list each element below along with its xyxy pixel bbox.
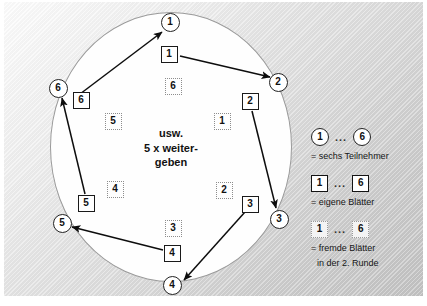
legend-symbol-last-own: 6 — [352, 175, 369, 192]
own-sheet-label: 6 — [78, 95, 84, 105]
foreign-sheet-label: 6 — [170, 81, 176, 91]
own-sheet-4: 4 — [164, 245, 181, 262]
participant-circle-label: 3 — [276, 214, 282, 224]
own-sheet-label: 3 — [247, 199, 253, 209]
foreign-sheet-label: 2 — [221, 185, 227, 195]
frame-left-margin — [0, 0, 4, 306]
legend-caption-circle: = sechs Teilnehmer — [311, 150, 423, 162]
participant-circle-6: 6 — [49, 79, 68, 98]
center-caption-line-1: usw. — [121, 126, 221, 141]
legend-symbols-foreign: 1...6 — [311, 219, 423, 239]
own-sheet-label: 4 — [169, 248, 175, 258]
foreign-sheet-4: 4 — [107, 181, 124, 198]
participant-circle-5: 5 — [53, 214, 72, 233]
center-caption-line-3: geben — [121, 155, 221, 170]
legend-caption-foreign: = fremde Blätter — [311, 242, 423, 254]
legend-symbol-last-circle: 6 — [353, 128, 371, 146]
foreign-sheet-label: 4 — [112, 184, 118, 194]
foreign-sheet-label: 5 — [110, 116, 116, 126]
foreign-sheet-6: 6 — [165, 78, 182, 95]
foreign-sheet-label: 3 — [170, 223, 176, 233]
legend-symbol-first-foreign: 1 — [311, 221, 328, 238]
own-sheet-2: 2 — [242, 93, 259, 110]
foreign-sheet-label: 1 — [219, 116, 225, 126]
participant-circle-label: 6 — [55, 83, 61, 93]
own-sheet-label: 1 — [166, 49, 172, 59]
participant-circle-label: 1 — [167, 17, 173, 27]
center-caption-line-2: 5 x weiter- — [121, 141, 221, 156]
legend-ellipsis: ... — [334, 178, 346, 189]
foreign-sheet-3: 3 — [165, 220, 182, 237]
frame-top-margin — [0, 0, 427, 2]
legend: 1...6= sechs Teilnehmer1...6= eigene Blä… — [311, 127, 423, 281]
figure-root: 123456612345123456 usw. 5 x weiter- gebe… — [0, 0, 427, 306]
participant-circle-4: 4 — [163, 276, 182, 295]
own-sheet-3: 3 — [242, 196, 259, 213]
legend-symbol-last-foreign: 6 — [352, 221, 369, 238]
participant-circle-label: 2 — [275, 77, 281, 87]
legend-item-own: 1...6= eigene Blätter — [311, 173, 423, 208]
participant-circle-2: 2 — [269, 73, 288, 92]
participant-circle-label: 5 — [59, 218, 65, 228]
legend-item-foreign: 1...6= fremde Blätterin der 2. Runde — [311, 219, 423, 269]
participant-circle-label: 4 — [169, 280, 175, 290]
frame-right-margin — [423, 0, 427, 306]
own-sheet-5: 5 — [78, 195, 95, 212]
frame-bottom-margin — [0, 298, 427, 306]
own-sheet-label: 5 — [83, 198, 89, 208]
foreign-sheet-2: 2 — [216, 182, 233, 199]
own-sheet-1: 1 — [161, 46, 178, 63]
legend-symbol-first-own: 1 — [311, 175, 328, 192]
legend-item-circle: 1...6= sechs Teilnehmer — [311, 127, 423, 162]
center-caption: usw. 5 x weiter- geben — [121, 126, 221, 170]
foreign-sheet-5: 5 — [105, 113, 122, 130]
legend-symbols-own: 1...6 — [311, 173, 423, 193]
legend-ellipsis: ... — [334, 224, 346, 235]
own-sheet-6: 6 — [73, 92, 90, 109]
participant-circle-3: 3 — [270, 210, 289, 229]
legend-caption-own: = eigene Blätter — [311, 196, 423, 208]
legend-ellipsis: ... — [335, 132, 347, 143]
legend-symbols-circle: 1...6 — [311, 127, 423, 147]
participant-circle-1: 1 — [161, 13, 180, 32]
legend-symbol-first-circle: 1 — [311, 128, 329, 146]
own-sheet-label: 2 — [247, 96, 253, 106]
legend-caption2-foreign: in der 2. Runde — [311, 257, 423, 269]
